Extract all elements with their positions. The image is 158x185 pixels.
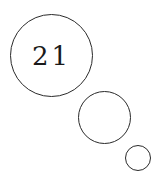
- thought-bubble-large: 21: [10, 14, 93, 97]
- thought-bubble-small: [125, 145, 151, 171]
- bubble-number: 21: [32, 41, 71, 71]
- thought-bubble-medium: [78, 91, 131, 144]
